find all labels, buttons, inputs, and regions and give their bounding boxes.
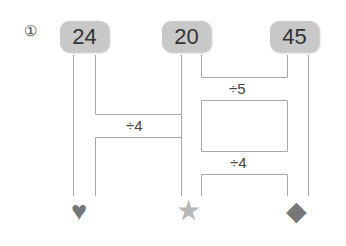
- operation-divide-4-right: ÷4: [230, 154, 247, 171]
- heart-icon: ♥: [71, 198, 87, 225]
- operation-divide-4-left: ÷4: [126, 117, 143, 134]
- diamond-icon: ◆: [286, 198, 307, 225]
- operation-divide-5: ÷5: [229, 80, 246, 97]
- star-icon: ★: [176, 197, 201, 225]
